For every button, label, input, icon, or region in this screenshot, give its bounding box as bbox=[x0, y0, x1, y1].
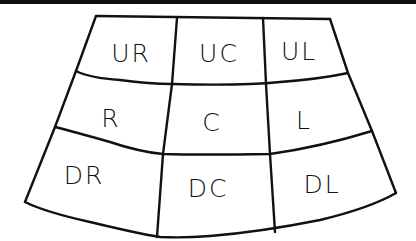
top-edge bbox=[96, 16, 330, 19]
cell-L: L bbox=[296, 106, 312, 135]
cell-UL: UL bbox=[281, 37, 317, 66]
cell-C: C bbox=[202, 108, 221, 137]
cell-DC: DC bbox=[188, 174, 229, 203]
right-edge bbox=[330, 19, 396, 193]
cell-DL: DL bbox=[303, 170, 340, 199]
column-divider-left bbox=[157, 18, 177, 237]
row-divider-1 bbox=[76, 71, 348, 85]
cell-R: R bbox=[101, 104, 120, 133]
cell-UR: UR bbox=[111, 39, 151, 68]
column-divider-right bbox=[263, 18, 275, 232]
cell-UC: UC bbox=[199, 39, 239, 68]
cell-DR: DR bbox=[64, 161, 105, 190]
